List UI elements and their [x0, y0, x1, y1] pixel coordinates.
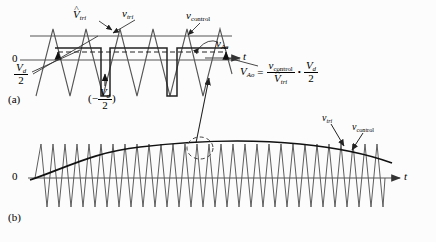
label-v-ao: vAo: [216, 38, 228, 51]
leader-v-control: [188, 23, 200, 35]
panel-b-axis-label-t: t: [404, 171, 407, 182]
panel-a-output-square-wave: [55, 48, 228, 96]
panel-b-label-v-tri: vtri: [322, 113, 332, 124]
leader-v-tri: [113, 20, 135, 33]
label-v-tri: vtri: [122, 8, 133, 21]
label-v-tri-peak: ˄Vtri: [73, 9, 86, 22]
label-vd-over-2: Vd 2: [14, 62, 28, 86]
callout-connector-b-to-a: [196, 78, 209, 143]
panel-b-triangular-carrier: [35, 144, 385, 207]
label-v-control: vcontrol: [186, 10, 210, 23]
leader-vd-over-2-b: [33, 36, 98, 74]
label-neg-vd-over-2: (− Vd 2 ): [88, 87, 116, 111]
figure-container: (a) 0 ˄Vtri vtri vcontrol vAo t Vd 2 (− …: [0, 0, 436, 242]
panel-b-zero-label: 0: [12, 171, 18, 182]
panel-a-triangular-carrier: [36, 29, 232, 96]
equation-v-ao: VAo = vcontrol ˄Vtri • Vd 2: [240, 60, 318, 85]
panel-b-label-v-control: vcontrol: [352, 122, 374, 133]
panel-a-tag: (a): [8, 94, 20, 105]
leader-b-v-control: [352, 133, 363, 150]
panel-b-tag: (b): [8, 212, 21, 223]
leader-v-tri-peak: [99, 21, 112, 30]
leader-b-v-tri: [331, 124, 344, 146]
